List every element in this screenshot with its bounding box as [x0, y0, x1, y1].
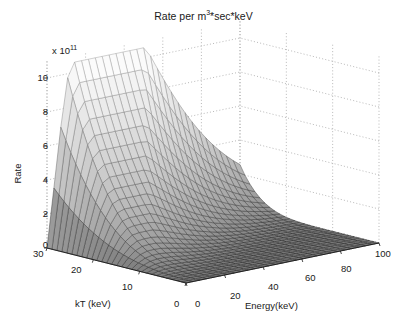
x-tick-label: 30 — [33, 249, 44, 259]
y-tick-label: 20 — [230, 291, 241, 301]
z-tick-label: 4 — [30, 175, 48, 185]
x-tick-label: 10 — [122, 282, 133, 292]
y-tick-label: 100 — [375, 249, 391, 259]
y-tick-label: 40 — [268, 282, 279, 292]
y-tick-label: 60 — [305, 273, 316, 283]
z-tick-label: 10 — [30, 73, 48, 83]
y-tick-label: 0 — [195, 299, 200, 309]
figure-canvas: Rate per m3*sec*keV x 1011 Rate kT (keV)… — [0, 0, 407, 334]
z-tick-label: 2 — [30, 209, 48, 219]
y-tick-label: 80 — [341, 264, 352, 274]
surface-plot — [0, 0, 407, 334]
z-tick-label: 6 — [30, 141, 48, 151]
z-tick-label: 8 — [30, 107, 48, 117]
x-tick-label: 20 — [71, 265, 82, 275]
x-tick-label: 0 — [174, 299, 179, 309]
